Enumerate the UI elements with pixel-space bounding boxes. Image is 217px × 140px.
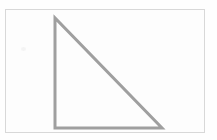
figure-canvas: [0, 0, 217, 140]
right-triangle-shape: [0, 0, 217, 140]
right-triangle-outline: [55, 18, 162, 128]
